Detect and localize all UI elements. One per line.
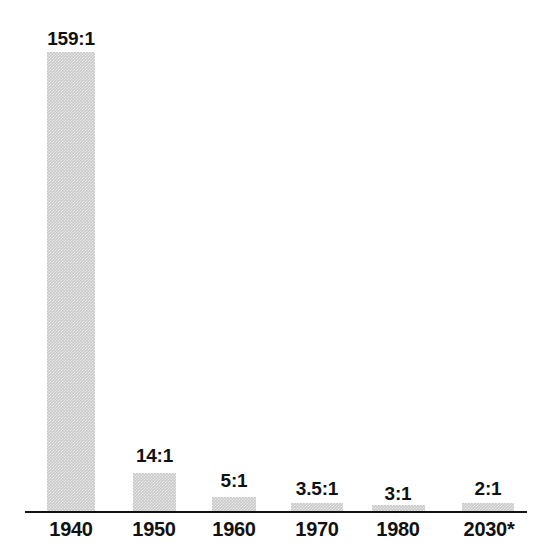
bar-value-label: 14:1 bbox=[124, 446, 185, 465]
bar-1940 bbox=[47, 52, 95, 511]
plot-area: 159:1 14:1 5:1 3.5:1 3:1 2:1 1940 1950 1… bbox=[0, 0, 553, 560]
bar-2030 bbox=[462, 503, 514, 511]
x-axis-label-1940: 1940 bbox=[36, 519, 106, 539]
bar-value-label: 159:1 bbox=[37, 29, 105, 48]
x-axis-line bbox=[25, 511, 527, 513]
x-axis-label-1980: 1980 bbox=[363, 519, 433, 539]
x-axis-label-1960: 1960 bbox=[199, 519, 269, 539]
x-axis-label-1950: 1950 bbox=[119, 519, 189, 539]
bar-chart: 159:1 14:1 5:1 3.5:1 3:1 2:1 1940 1950 1… bbox=[0, 0, 553, 560]
bar-value-label: 3.5:1 bbox=[281, 479, 353, 498]
bar-1970 bbox=[291, 503, 343, 511]
bar-value-label: 5:1 bbox=[204, 471, 264, 490]
bar-value-label: 3:1 bbox=[368, 484, 428, 503]
bar-1950 bbox=[133, 473, 176, 511]
bar-value-label: 2:1 bbox=[458, 479, 518, 498]
x-axis-label-2030: 2030* bbox=[447, 519, 531, 539]
bar-1960 bbox=[212, 497, 256, 511]
x-axis-label-1970: 1970 bbox=[282, 519, 352, 539]
